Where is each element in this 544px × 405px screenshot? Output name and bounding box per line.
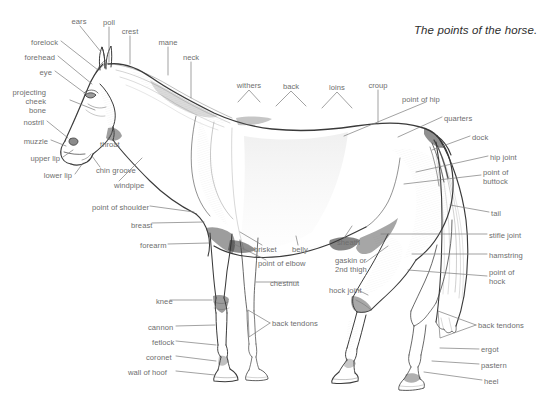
- label-line: bone: [29, 106, 46, 115]
- label-quarters: quarters: [444, 114, 472, 123]
- label-lower-lip: lower lip: [28, 171, 72, 180]
- page-title: The points of the horse.: [414, 24, 537, 36]
- label-throat: throat: [100, 140, 120, 149]
- label-coronet: coronet: [146, 353, 172, 362]
- label-line: point of: [489, 268, 514, 277]
- label-stifle-joint: stifle joint: [489, 231, 521, 240]
- label-eye: eye: [14, 68, 52, 77]
- label-crest: crest: [114, 27, 146, 36]
- leader-lines: [0, 0, 544, 405]
- label-hock-joint: hock joint: [329, 286, 362, 295]
- label-point-of-elbow: point of elbow: [258, 259, 306, 268]
- label-heel: heel: [484, 377, 499, 386]
- label-mane: mane: [150, 38, 186, 47]
- horse-points-diagram: The points of the horse. ears poll crest…: [0, 0, 544, 405]
- label-neck: neck: [175, 53, 207, 62]
- label-gaskin-or-2nd-thigh: gaskin or2nd thigh: [335, 256, 367, 274]
- label-chin-groove: chin groove: [96, 166, 136, 175]
- label-forehead: forehead: [3, 53, 55, 62]
- label-upper-lip: upper lip: [16, 154, 60, 163]
- label-hamstring: hamstring: [489, 251, 523, 260]
- label-cannon: cannon: [148, 323, 173, 332]
- label-brisket: brisket: [254, 245, 277, 254]
- label-point-of-hip: point of hip: [402, 95, 440, 104]
- label-projecting-cheek-bone: projectingcheekbone: [4, 88, 46, 115]
- label-forelock: forelock: [8, 38, 58, 47]
- label-point-of-buttock: point ofbuttock: [483, 168, 508, 186]
- label-loins: loins: [321, 83, 353, 92]
- label-withers: withers: [229, 81, 269, 90]
- label-back-tendons-left: back tendons: [272, 319, 318, 328]
- label-nostril: nostril: [6, 118, 44, 127]
- label-line: point of: [483, 168, 508, 177]
- label-line: hock: [489, 277, 505, 286]
- horse-illustration: [0, 0, 544, 405]
- label-chestnut: chestnut: [270, 279, 299, 288]
- label-belly: belly: [292, 245, 308, 254]
- label-line: buttock: [483, 177, 508, 186]
- label-fetlock: fetlock: [152, 338, 174, 347]
- label-knee: knee: [156, 297, 173, 306]
- label-ears: ears: [64, 17, 94, 26]
- label-line: projecting: [13, 88, 46, 97]
- label-pastern: pastern: [481, 361, 507, 370]
- label-breast: breast: [131, 221, 152, 230]
- label-windpipe: windpipe: [114, 181, 144, 190]
- label-point-of-hock: point ofhock: [489, 268, 514, 286]
- label-hip-joint: hip joint: [490, 153, 517, 162]
- label-poll: poll: [95, 18, 123, 27]
- label-back-tendons-right: back tendons: [478, 321, 524, 330]
- label-line: gaskin or: [335, 256, 366, 265]
- label-tail: tail: [491, 209, 501, 218]
- label-forearm: forearm: [140, 241, 167, 250]
- label-muzzle: muzzle: [8, 137, 48, 146]
- label-back: back: [274, 82, 308, 91]
- label-wall-of-hoof: wall of hoof: [128, 368, 167, 377]
- label-point-of-shoulder: point of shoulder: [92, 203, 149, 212]
- label-croup: croup: [360, 81, 396, 90]
- label-dock: dock: [472, 133, 488, 142]
- label-line: cheek: [25, 97, 46, 106]
- label-sheath: sheath: [337, 238, 360, 247]
- label-line: 2nd thigh: [335, 265, 367, 274]
- label-ergot: ergot: [481, 345, 499, 354]
